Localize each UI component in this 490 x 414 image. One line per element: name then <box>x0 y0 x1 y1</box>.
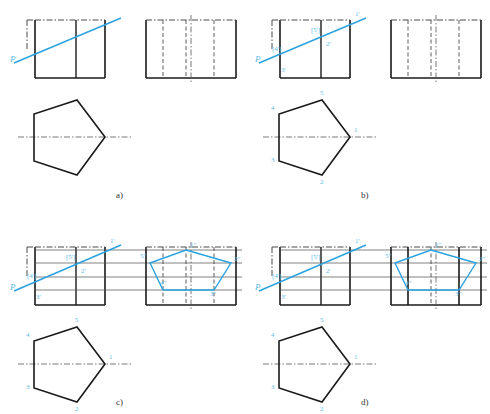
plane-trace-label-b: P <box>254 54 261 64</box>
top-vertex-label-d-4: 5 <box>320 316 324 324</box>
top-vertex-label-d-0: 1 <box>354 353 358 361</box>
plane-trace-label-c: P <box>9 282 16 292</box>
front-vertex-label-b-1: [5'] <box>311 26 320 34</box>
front-vertex-label-c-4: 3' <box>36 293 41 301</box>
plane-trace-label-d: P <box>254 282 261 292</box>
front-vertex-label-b-2: 2' <box>326 40 331 48</box>
panel-caption-b: b) <box>361 190 369 200</box>
top-vertex-label-c-2: 3 <box>26 383 30 391</box>
top-vertex-label-b-2: 3 <box>271 156 275 164</box>
side-vertex-label-d-2: 3" <box>455 290 462 298</box>
plane-trace-label-a: P <box>9 54 16 64</box>
top-view-pentagon-a <box>34 100 105 175</box>
top-vertex-label-c-4: 5 <box>75 316 79 324</box>
top-vertex-label-b-4: 5 <box>320 89 324 97</box>
side-vertex-label-d-1: 2" <box>479 255 486 263</box>
side-vertex-label-c-2: 3" <box>210 290 217 298</box>
top-view-pentagon-c <box>34 327 105 402</box>
front-vertex-label-b-0: 1' <box>355 10 360 18</box>
side-vertex-label-c-1: 2" <box>234 255 241 263</box>
side-vertex-label-c-0: 1" <box>190 241 197 249</box>
top-vertex-label-b-0: 1 <box>354 126 358 134</box>
panel-caption-a: a) <box>116 190 123 200</box>
panel-caption-d: d) <box>361 397 369 407</box>
panel-caption-c: c) <box>116 397 123 407</box>
top-view-pentagon-d <box>279 327 350 402</box>
front-vertex-label-d-3: [4'] <box>272 272 281 280</box>
front-vertex-label-c-0: 1' <box>110 237 115 245</box>
side-vertex-label-d-4: 5" <box>385 252 392 260</box>
technical-drawing-svg: PP1'[5']2'[4']3'12345P1'[5']2'[4']3'1"2"… <box>0 0 490 414</box>
front-vertex-label-c-3: [4'] <box>27 272 36 280</box>
top-view-pentagon-b <box>279 100 350 175</box>
side-vertex-label-c-3: 4" <box>160 279 167 287</box>
side-vertex-label-d-0: 1" <box>435 241 442 249</box>
top-vertex-label-d-1: 2 <box>320 405 324 413</box>
top-vertex-label-c-0: 1 <box>109 353 113 361</box>
front-vertex-label-d-1: [5'] <box>311 253 320 261</box>
top-vertex-label-c-3: 4 <box>26 331 30 339</box>
top-vertex-label-c-1: 2 <box>75 405 79 413</box>
front-vertex-label-d-0: 1' <box>355 237 360 245</box>
front-vertex-label-c-2: 2' <box>81 267 86 275</box>
front-vertex-label-c-1: [5'] <box>66 253 75 261</box>
front-vertex-label-b-3: [4'] <box>272 45 281 53</box>
front-vertex-label-b-4: 3' <box>281 66 286 74</box>
top-vertex-label-d-2: 3 <box>271 383 275 391</box>
side-vertex-label-c-4: 5" <box>140 252 147 260</box>
front-vertex-label-d-2: 2' <box>326 267 331 275</box>
side-vertex-label-d-3: 4" <box>405 279 412 287</box>
top-vertex-label-b-3: 4 <box>271 104 275 112</box>
top-vertex-label-d-3: 4 <box>271 331 275 339</box>
front-vertex-label-d-4: 3' <box>281 293 286 301</box>
figure-canvas: PP1'[5']2'[4']3'12345P1'[5']2'[4']3'1"2"… <box>0 0 490 414</box>
top-vertex-label-b-1: 2 <box>320 178 324 186</box>
